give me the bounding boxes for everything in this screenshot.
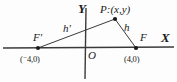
geometry-figure: Y X O P:(x,y) h' h F' F (⁻4,0) (4,0) — [0, 0, 177, 82]
point-p-label: P:(x,y) — [100, 4, 130, 15]
x-axis-label: X — [161, 31, 170, 44]
point-f-dot — [134, 46, 138, 50]
origin-label: O — [88, 50, 96, 61]
figure-canvas — [0, 0, 177, 82]
segment-h-prime — [38, 19, 115, 48]
y-axis-line — [85, 8, 86, 79]
point-f-prime-label: F' — [33, 32, 42, 43]
y-axis-label: Y — [78, 2, 86, 15]
segment-h-prime-label: h' — [63, 23, 71, 34]
point-f-prime-dot — [36, 46, 40, 50]
point-f-prime-coordinates: (⁻4,0) — [20, 55, 40, 64]
point-f-coordinates: (4,0) — [124, 55, 139, 64]
point-f-label: F — [140, 32, 147, 43]
point-p-dot — [113, 17, 117, 21]
x-axis-line — [3, 47, 174, 48]
segment-h-label: h — [124, 22, 130, 33]
